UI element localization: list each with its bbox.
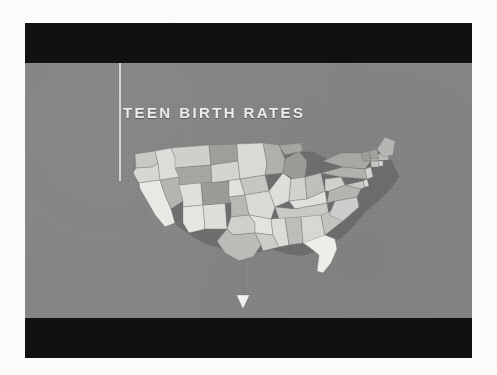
- us-choropleth-map: [113, 123, 413, 308]
- letterbox-bar-bottom: [25, 318, 472, 358]
- scanned-page: TEEN BIRTH RATES: [0, 0, 497, 375]
- us-map-svg: [113, 123, 413, 308]
- overlay-title: TEEN BIRTH RATES: [123, 104, 305, 121]
- letterbox-bar-top: [25, 23, 472, 63]
- state-new-hampshire: [369, 149, 379, 159]
- state-rhode-island: [379, 161, 383, 166]
- state-newmexico: [203, 203, 227, 229]
- state-wyoming: [175, 165, 212, 185]
- state-minnesota: [237, 143, 267, 179]
- state-oklahoma: [227, 215, 255, 235]
- state-arizona: [183, 205, 205, 233]
- state-indiana: [289, 177, 307, 201]
- video-still-frame: TEEN BIRTH RATES: [25, 23, 472, 358]
- state-connecticut: [371, 161, 379, 167]
- pointer-arrow: [237, 261, 250, 308]
- state-colorado: [201, 181, 231, 205]
- state-washington: [135, 151, 158, 168]
- state-montana: [171, 145, 211, 168]
